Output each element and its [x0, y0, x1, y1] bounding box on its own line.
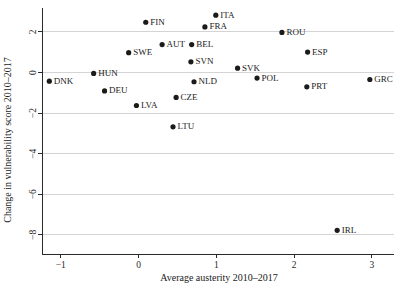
data-point-fra	[202, 24, 207, 29]
data-point-lva	[134, 103, 139, 108]
y-tick-label--2: −2	[28, 108, 38, 118]
point-label-svk: SVK	[242, 63, 261, 73]
point-label-pol: POL	[262, 73, 279, 83]
data-points: DNKHUNDEUSWELVAFINAUTLTUCZESVNBELNLDFRAI…	[47, 10, 393, 235]
x-tick-label-3: 3	[370, 260, 375, 270]
y-tick-label--8: −8	[28, 230, 38, 240]
data-point-hun	[91, 71, 96, 76]
y-tick-label-0: 0	[28, 70, 38, 75]
point-label-esp: ESP	[312, 47, 328, 57]
point-label-grc: GRC	[374, 74, 393, 84]
data-point-deu	[102, 88, 107, 93]
axis-lines	[42, 8, 394, 254]
data-point-ita	[213, 13, 218, 18]
data-point-aut	[160, 42, 165, 47]
point-label-aut: AUT	[167, 39, 186, 49]
x-axis-title: Average austerity 2010–2017	[160, 272, 278, 283]
data-point-irl	[335, 228, 340, 233]
x-tick-label-1: 1	[214, 260, 219, 270]
data-point-ltu	[170, 124, 175, 129]
gridlines	[42, 32, 395, 235]
point-label-rou: ROU	[286, 27, 306, 37]
data-point-prt	[304, 84, 309, 89]
data-point-dnk	[47, 79, 52, 84]
y-tick-label--6: −6	[28, 189, 38, 199]
point-label-prt: PRT	[311, 81, 327, 91]
point-label-dnk: DNK	[54, 76, 74, 86]
x-tick-label-0: 0	[136, 260, 141, 270]
y-tick-label--4: −4	[28, 148, 38, 158]
x-tick-label-2: 2	[292, 260, 297, 270]
point-label-swe: SWE	[133, 47, 153, 57]
x-axis-ticks: −10123	[56, 254, 375, 270]
data-point-nld	[191, 79, 196, 84]
data-point-cze	[174, 95, 179, 100]
point-label-ita: ITA	[220, 10, 235, 20]
point-label-lva: LVA	[141, 100, 158, 110]
y-axis-title: Change in vulnerability score 2010–2017	[2, 57, 13, 223]
data-point-rou	[279, 30, 284, 35]
point-label-ltu: LTU	[178, 121, 195, 131]
y-tick-label-2: 2	[28, 29, 38, 34]
point-label-cze: CZE	[181, 92, 199, 102]
data-point-bel	[189, 42, 194, 47]
point-label-fin: FIN	[150, 17, 165, 27]
plot-canvas: −10123 20−2−4−6−8 DNKHUNDEUSWELVAFINAUTL…	[0, 0, 399, 292]
point-label-irl: IRL	[342, 225, 357, 235]
data-point-svk	[235, 66, 240, 71]
x-tick-label--1: −1	[56, 260, 66, 270]
y-axis-ticks: 20−2−4−6−8	[28, 29, 42, 240]
data-point-esp	[305, 50, 310, 55]
scatter-plot-figure: −10123 20−2−4−6−8 DNKHUNDEUSWELVAFINAUTL…	[0, 0, 399, 292]
point-label-fra: FRA	[209, 21, 227, 31]
data-point-grc	[367, 77, 372, 82]
data-point-svn	[188, 59, 193, 64]
data-point-fin	[143, 20, 148, 25]
point-label-svn: SVN	[195, 56, 214, 66]
data-point-pol	[254, 75, 259, 80]
data-point-swe	[126, 50, 131, 55]
point-label-bel: BEL	[196, 39, 213, 49]
point-label-nld: NLD	[199, 76, 218, 86]
point-label-hun: HUN	[98, 68, 118, 78]
point-label-deu: DEU	[109, 85, 128, 95]
